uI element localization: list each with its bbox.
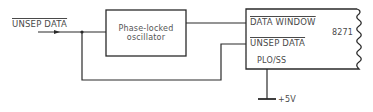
circuit-diagram	[0, 0, 373, 112]
chip-name-label: 8271	[332, 29, 353, 37]
oscillator-label-line1: Phase-locked	[106, 24, 186, 33]
input-signal-label: UNSEP DATA	[12, 20, 67, 29]
oscillator-label-line2: oscillator	[106, 33, 186, 42]
pin-unsep-data-label: UNSEP DATA	[250, 39, 305, 48]
pin-plo-ss-label: PLO/SS	[257, 57, 286, 65]
supply-voltage-label: +5V	[278, 96, 296, 104]
pin-data-window-label: DATA WINDOW	[250, 18, 316, 27]
oscillator-label: Phase-locked oscillator	[106, 24, 186, 42]
input-arrow-icon	[54, 30, 60, 34]
